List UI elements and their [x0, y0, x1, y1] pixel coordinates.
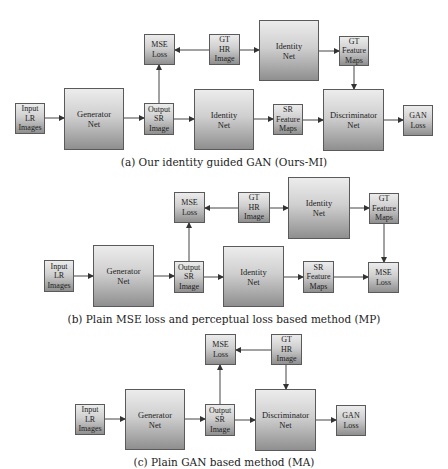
diagram-a-caption: (a) Our identity guided GAN (Ours-MI): [0, 156, 448, 168]
diagram-a-box-identity-bottom: Identity Net: [194, 89, 254, 150]
diagram-a-box-output: Output SR Image: [144, 103, 174, 135]
diagram-c-caption: (c) Plain GAN based method (MA): [0, 456, 448, 468]
diagram-a-box-mse: MSE Loss: [144, 34, 175, 65]
diagram-b-box-generator: Generator Net: [93, 245, 154, 307]
diagram-c-box-input: Input LR Images: [75, 404, 105, 435]
diagram-c-box-mse: MSE Loss: [205, 334, 236, 365]
diagram-b-box-gtfeat: GT Feature Maps: [369, 193, 399, 224]
diagram-b-box-input: Input LR Images: [44, 260, 74, 292]
diagram-b-box-output: Output SR Image: [174, 261, 204, 293]
diagram-b-box-mse: MSE Loss: [174, 192, 205, 223]
diagram-b-box-gthr: GT HR Image: [238, 192, 270, 223]
diagram-b-box-identity-top: Identity Net: [288, 177, 350, 239]
diagram-a-box-srfeat: SR Feature Maps: [273, 104, 303, 135]
diagram-b-box-mse-right: MSE Loss: [368, 262, 399, 293]
diagram-a-box-disc: Discriminator Net: [323, 89, 384, 151]
figure: Input LR ImagesGenerator NetOutput SR Im…: [0, 0, 448, 469]
diagram-a-box-identity-top: Identity Net: [259, 20, 319, 81]
diagram-c-box-generator: Generator Net: [125, 389, 185, 450]
diagram-c-box-disc: Discriminator Net: [255, 389, 316, 451]
diagram-c-box-output: Output SR Image: [205, 404, 235, 436]
diagram-b-box-srfeat: SR Feature Maps: [303, 261, 334, 293]
diagram-a-box-input: Input LR Images: [15, 103, 45, 134]
diagram-a-box-gtfeat: GT Feature Maps: [339, 36, 369, 66]
diagram-a-box-generator: Generator Net: [64, 88, 124, 150]
diagram-a-box-gthr: GT HR Image: [209, 34, 240, 65]
diagram-a-box-ganloss: GAN Loss: [403, 105, 433, 136]
diagram-b-caption: (b) Plain MSE loss and perceptual loss b…: [0, 313, 448, 325]
diagram-c-box-ganloss: GAN Loss: [336, 405, 366, 436]
diagram-b-box-identity-bottom: Identity Net: [223, 246, 284, 307]
arrow-layer: [0, 0, 448, 469]
diagram-c-box-gthr: GT HR Image: [271, 334, 302, 365]
